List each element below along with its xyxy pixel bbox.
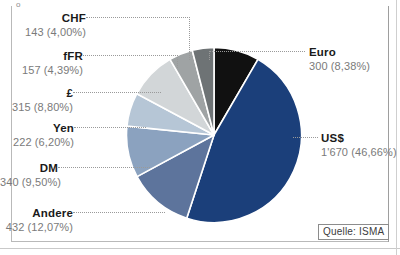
pie-label-chf-name: CHF <box>62 12 86 24</box>
pie-label-ffr: fFR 157 (4,39%) <box>0 46 83 76</box>
pie-graphic <box>126 47 302 223</box>
leader-line-yen-h <box>74 127 146 128</box>
pie-label-dm-name: DM <box>40 162 58 174</box>
pie-label-andere-value: 432 (12,07%) <box>0 221 73 233</box>
pie-label-andere-name: Andere <box>32 207 73 219</box>
leader-line-euro-v <box>209 51 210 60</box>
pie-label-gbp: £ 315 (8,80%) <box>0 83 73 113</box>
pie-slices <box>126 48 301 223</box>
pie-chart-figure: o CHF 143 (4,00%) fFR 157 (4,39%) £ <box>0 0 400 255</box>
source-label: Quelle: ISMA <box>318 224 389 240</box>
page-bottom-rule <box>0 248 400 249</box>
pie-label-euro: Euro 300 (8,38%) <box>309 42 370 72</box>
pie-label-chf-value: 143 (4,00%) <box>0 26 86 38</box>
pie-label-usd: US$ 1'670 (46,66%) <box>321 128 397 158</box>
pie-label-dm: DM 340 (9,50%) <box>0 158 58 188</box>
pie-label-gbp-name: £ <box>66 87 73 99</box>
leader-line-dm-h <box>58 167 150 168</box>
pie-label-yen-value: 222 (6,20%) <box>0 136 74 148</box>
pie-label-euro-name: Euro <box>309 46 336 58</box>
leader-line-ffr-v <box>177 55 178 68</box>
leader-line-ffr-h <box>83 55 178 56</box>
leader-line-euro-h <box>209 51 305 52</box>
pie-label-usd-name: US$ <box>321 132 344 144</box>
leader-line-chf-v <box>189 17 190 60</box>
pie-label-usd-value: 1'670 (46,66%) <box>321 146 397 158</box>
pie-label-gbp-value: 315 (8,80%) <box>0 101 73 113</box>
pie-label-dm-value: 340 (9,50%) <box>0 176 58 188</box>
pie-label-yen-name: Yen <box>53 122 74 134</box>
leader-line-andere-h <box>73 212 165 213</box>
pie-label-andere: Andere 432 (12,07%) <box>0 203 73 233</box>
corner-mark: o <box>16 1 25 8</box>
pie-label-ffr-name: fFR <box>63 50 83 62</box>
pie-label-ffr-value: 157 (4,39%) <box>0 64 83 76</box>
pie-svg <box>126 47 302 223</box>
pie-label-chf: CHF 143 (4,00%) <box>0 8 86 38</box>
pie-label-euro-value: 300 (8,38%) <box>309 60 370 72</box>
frame-bottom-border <box>11 241 389 242</box>
leader-line-gbp-h <box>73 92 161 93</box>
pie-label-yen: Yen 222 (6,20%) <box>0 118 74 148</box>
leader-line-chf-h <box>86 17 190 18</box>
frame-right-border <box>388 6 389 242</box>
leader-line-usd-h <box>293 137 318 138</box>
